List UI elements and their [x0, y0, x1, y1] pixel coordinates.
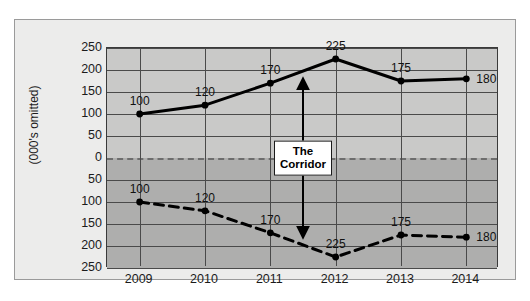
data-point-marker [136, 199, 143, 206]
data-point-marker [267, 229, 274, 236]
y-axis-tick-labels: 25020015010050050100150200250 [58, 47, 102, 267]
y-axis-tick-label: 50 [62, 129, 102, 142]
chart-canvas: (000's omitted) 250200150100500501001502… [0, 0, 530, 301]
corridor-label-line-1: The [280, 145, 326, 158]
data-point-marker [202, 207, 209, 214]
x-axis-tick-labels: 200920102011201220132014 [106, 272, 498, 290]
data-point-label: 170 [260, 214, 280, 226]
y-axis-title: (000's omitted) [27, 70, 41, 180]
data-point-label: 175 [391, 62, 411, 74]
data-point-marker [136, 111, 143, 118]
x-axis-tick-label: 2013 [365, 272, 435, 286]
y-axis-tick-label: 150 [62, 217, 102, 230]
data-point-marker [332, 56, 339, 63]
gridline-horizontal [107, 268, 497, 269]
y-axis-tick-label: 100 [62, 195, 102, 208]
corridor-annotation-label: TheCorridor [274, 141, 332, 176]
y-axis-tick-label: 250 [62, 41, 102, 54]
y-axis-tick-label: 50 [62, 173, 102, 186]
data-point-marker [463, 75, 470, 82]
y-axis-tick-label: 200 [62, 63, 102, 76]
x-axis-tick-label: 2012 [300, 272, 370, 286]
data-point-marker [202, 102, 209, 109]
data-point-label: 100 [130, 183, 150, 195]
data-point-marker [267, 80, 274, 87]
data-point-label: 120 [195, 192, 215, 204]
data-point-label: 180 [476, 73, 496, 85]
corridor-label-line-2: Corridor [280, 158, 326, 171]
y-axis-tick-label: 0 [62, 151, 102, 164]
data-point-label: 180 [476, 231, 496, 243]
data-point-marker [463, 234, 470, 241]
chart-panel: (000's omitted) 250200150100500501001502… [14, 19, 516, 280]
x-axis-tick-label: 2009 [104, 272, 174, 286]
x-axis-tick-label: 2010 [169, 272, 239, 286]
y-axis-tick-label: 100 [62, 107, 102, 120]
data-point-label: 225 [326, 40, 346, 52]
y-axis-tick-label: 200 [62, 239, 102, 252]
data-point-label: 170 [260, 64, 280, 76]
data-point-label: 225 [326, 238, 346, 250]
data-point-label: 100 [130, 95, 150, 107]
y-axis-tick-label: 250 [62, 261, 102, 274]
data-point-marker [398, 232, 405, 239]
data-point-label: 175 [391, 216, 411, 228]
y-axis-tick-label: 150 [62, 85, 102, 98]
x-axis-tick-label: 2014 [430, 272, 500, 286]
x-axis-tick-label: 2011 [234, 272, 304, 286]
data-point-marker [398, 78, 405, 85]
data-point-label: 120 [195, 86, 215, 98]
plot-area: 100120170225175180100120170225175180 The… [106, 47, 498, 267]
data-point-marker [332, 254, 339, 261]
